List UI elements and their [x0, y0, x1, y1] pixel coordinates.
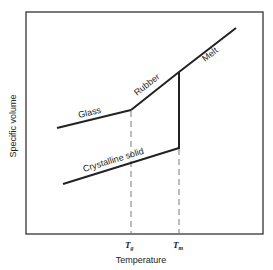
rubber-melt-line: [131, 28, 236, 110]
rubber-label: Rubber: [132, 72, 161, 98]
specific-volume-diagram: Glass Rubber Melt Crystalline solid Tg T…: [0, 0, 273, 270]
x-axis-label: Temperature: [116, 255, 167, 265]
plot-frame: [26, 12, 263, 234]
melt-label: Melt: [200, 45, 220, 64]
tm-tick-label: Tm: [173, 240, 184, 251]
crystalline-solid-label: Crystalline solid: [82, 146, 145, 174]
tg-tick-label: Tg: [125, 240, 134, 251]
y-axis-label: Specific volume: [8, 94, 18, 157]
